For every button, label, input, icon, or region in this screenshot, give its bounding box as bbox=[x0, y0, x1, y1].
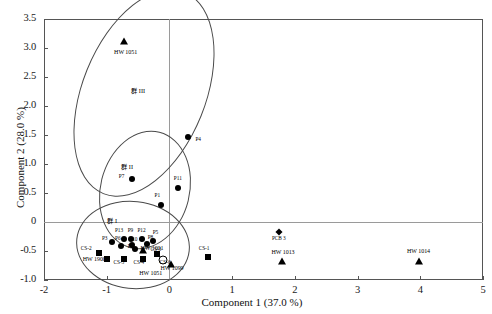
y-axis-tick-label: 1.5 bbox=[2, 128, 36, 139]
data-point-triangle bbox=[278, 258, 286, 265]
x-axis-tick-label: 4 bbox=[408, 284, 432, 295]
data-point-label: P2 bbox=[128, 244, 134, 249]
x-axis-tick-label: 2 bbox=[283, 284, 307, 295]
data-point-label: P8 bbox=[148, 235, 154, 240]
data-point-triangle bbox=[120, 38, 128, 45]
x-axis-tick-mark bbox=[358, 276, 359, 280]
data-point-square bbox=[96, 250, 102, 256]
data-point-circle bbox=[175, 185, 181, 191]
data-point-circle bbox=[118, 243, 124, 249]
y-axis-tick-label: 0.5 bbox=[2, 186, 36, 197]
y-axis-tick-label: -0.5 bbox=[2, 244, 36, 255]
data-point-circle bbox=[129, 176, 135, 182]
cluster-group-label: 群 I bbox=[107, 216, 117, 225]
data-point-circle bbox=[185, 134, 191, 140]
data-point-label: P5 bbox=[153, 230, 159, 235]
y-axis-tick-label: 3.0 bbox=[2, 41, 36, 52]
data-point-label: P13 bbox=[115, 228, 123, 233]
x-axis-tick-mark bbox=[295, 276, 296, 280]
data-point-triangle bbox=[415, 257, 423, 264]
y-axis-tick-label: 1.0 bbox=[2, 157, 36, 168]
x-axis-tick-label: 5 bbox=[471, 284, 492, 295]
data-point-square bbox=[205, 254, 211, 260]
x-axis-tick-label: 3 bbox=[346, 284, 370, 295]
y-axis-tick-label: -1.0 bbox=[2, 273, 36, 284]
y-axis-tick-mark bbox=[44, 280, 48, 281]
y-axis-tick-mark bbox=[44, 19, 48, 20]
x-axis-tick-mark bbox=[420, 276, 421, 280]
chart-canvas: Component 2 (28.0 %) Component 1 (37.0 %… bbox=[0, 0, 492, 314]
data-point-circle bbox=[158, 202, 164, 208]
x-axis-tick-label: 0 bbox=[157, 284, 181, 295]
x-axis-title: Component 1 (37.0 %) bbox=[202, 296, 303, 308]
data-point-label: P4 bbox=[195, 137, 201, 142]
data-point-label: CS-4 bbox=[134, 260, 145, 265]
x-axis-tick-mark bbox=[44, 276, 45, 280]
y-axis-tick-mark bbox=[44, 251, 48, 252]
data-point-label: HW 1013 bbox=[272, 249, 295, 255]
data-point-label: HW 1900 bbox=[83, 256, 106, 262]
data-point-label: CS-3 bbox=[150, 247, 161, 252]
y-axis-tick-label: 0 bbox=[2, 215, 36, 226]
y-axis-tick-mark bbox=[44, 164, 48, 165]
x-axis-tick-label: 1 bbox=[220, 284, 244, 295]
x-axis-tick-mark bbox=[232, 276, 233, 280]
cluster-group-label: 群 III bbox=[131, 86, 145, 95]
data-point-label: CS-2 bbox=[81, 246, 92, 251]
y-axis-tick-mark bbox=[44, 193, 48, 194]
y-axis-tick-label: 3.5 bbox=[2, 12, 36, 23]
data-point-label: P6 bbox=[115, 236, 121, 241]
data-point-label: P1 bbox=[155, 193, 161, 198]
data-point-label: P9 bbox=[128, 228, 134, 233]
data-point-label: PCB 3 bbox=[272, 236, 286, 241]
data-point-circle bbox=[109, 239, 115, 245]
x-axis-tick-mark bbox=[483, 276, 484, 280]
data-point-label: P3 bbox=[102, 236, 108, 241]
data-point-label: P11 bbox=[174, 176, 182, 181]
data-point-label: P10 bbox=[129, 237, 137, 242]
data-point-label: HW 1051 bbox=[139, 270, 162, 276]
data-point-label: CS-5 bbox=[113, 260, 124, 265]
y-axis-tick-mark bbox=[44, 77, 48, 78]
y-axis-tick-label: 2.5 bbox=[2, 70, 36, 81]
cluster-group-label: 群 II bbox=[121, 162, 133, 171]
y-axis-tick-mark bbox=[44, 48, 48, 49]
data-point-label: CS-1 bbox=[199, 246, 210, 251]
data-point-label: HW 1014 bbox=[407, 248, 430, 254]
y-axis-tick-mark bbox=[44, 106, 48, 107]
data-point-label: P7 bbox=[119, 174, 125, 179]
y-axis-tick-mark bbox=[44, 135, 48, 136]
x-axis-tick-label: -2 bbox=[32, 284, 56, 295]
y-axis-tick-label: 2.0 bbox=[2, 99, 36, 110]
data-point-label: P12 bbox=[137, 228, 145, 233]
data-point-label: HW 1051 bbox=[114, 49, 137, 55]
data-point-circle bbox=[121, 236, 127, 242]
data-point-label: HW 1099 bbox=[161, 265, 184, 271]
